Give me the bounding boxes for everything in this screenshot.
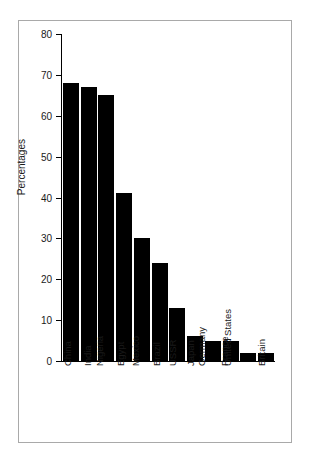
x-axis-label: Japan: [186, 340, 196, 366]
bar[interactable]: [98, 95, 114, 361]
x-axis-label: China: [62, 341, 72, 366]
y-axis-tick-label: 70: [41, 71, 52, 81]
y-axis-tick-label: 30: [41, 234, 52, 244]
x-axis-label-slot: Britain: [257, 363, 275, 439]
x-axis-label-slot: Germany: [204, 363, 222, 439]
y-axis-tick-label: 20: [41, 275, 52, 285]
bar-slot: [80, 34, 98, 361]
x-axis-label: India: [82, 345, 92, 366]
y-axis-tick: 30: [56, 238, 61, 239]
y-axis-tick: 40: [56, 198, 61, 199]
bar-slot: [98, 34, 116, 361]
bar-slot: [151, 34, 169, 361]
x-axis-label: Nigeria: [95, 336, 105, 366]
y-axis-tick: 10: [56, 320, 61, 321]
bar-slot: [115, 34, 133, 361]
x-axis-label-slot: France: [222, 363, 240, 439]
y-axis-tick: 80: [56, 34, 61, 35]
y-axis-tick: 60: [56, 116, 61, 117]
y-axis-tick-label: 0: [46, 357, 52, 367]
y-axis-tick-label: 40: [41, 194, 52, 204]
x-axis-label: United States: [224, 309, 234, 366]
y-axis-tick-label: 60: [41, 112, 52, 122]
bar-slot: [257, 34, 275, 361]
y-axis-tick-label: 10: [41, 316, 52, 326]
x-axis-label-slot: China: [62, 363, 80, 439]
y-axis-tick: 20: [56, 279, 61, 280]
bar-slot: [62, 34, 80, 361]
bar[interactable]: [240, 353, 256, 361]
y-axis-tick: 0: [56, 361, 61, 362]
x-axis-label: Egypt: [116, 342, 126, 366]
y-axis-tick: 50: [56, 157, 61, 158]
figure-frame: Percentages 01020304050607080 ChinaIndia…: [18, 20, 292, 443]
x-axis-label: Mexico: [131, 336, 141, 366]
bar-slot: [186, 34, 204, 361]
x-axis-label-slot: Brazil: [151, 363, 169, 439]
y-axis-tick-label: 50: [41, 153, 52, 163]
x-axis-label: Brazil: [152, 342, 162, 366]
y-axis-tick: 70: [56, 75, 61, 76]
x-axis-label: USSR: [168, 340, 178, 366]
y-axis-title: Percentages: [17, 139, 27, 195]
plot-area: 01020304050607080: [61, 34, 275, 361]
x-axis-label-slot: Japan: [186, 363, 204, 439]
x-axis-label: Germany: [197, 327, 207, 366]
x-axis-label: Britain: [257, 339, 267, 366]
bar-slot: [169, 34, 187, 361]
x-axis-label-slot: Egypt: [115, 363, 133, 439]
bar-slot: [204, 34, 222, 361]
x-axis-label-slot: India: [80, 363, 98, 439]
x-axis-label-slot: Mexico: [133, 363, 151, 439]
bar[interactable]: [81, 87, 97, 361]
x-axis-label-slot: USSR: [169, 363, 187, 439]
x-axis-label-slot: Nigeria: [98, 363, 116, 439]
bar-series: [62, 34, 275, 361]
x-axis-labels: ChinaIndiaNigeriaEgyptMexicoBrazilUSSRJa…: [62, 363, 275, 439]
bar-slot: [240, 34, 258, 361]
bar[interactable]: [63, 83, 79, 361]
bar-slot: [133, 34, 151, 361]
x-axis-label-slot: United States: [240, 363, 258, 439]
y-axis-tick-label: 80: [41, 30, 52, 40]
